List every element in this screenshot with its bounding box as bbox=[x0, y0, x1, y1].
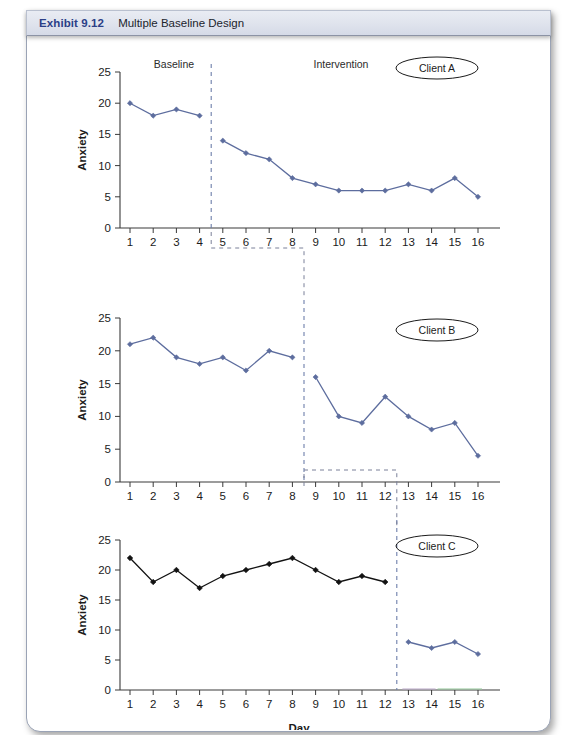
x-tick-label: 3 bbox=[173, 236, 179, 248]
chart-client-a: 051015202512345678910111213141516Anxiety… bbox=[26, 46, 551, 271]
x-tick-label: 5 bbox=[220, 236, 226, 248]
y-tick-label: 0 bbox=[105, 684, 111, 696]
x-tick-label: 12 bbox=[379, 490, 392, 502]
x-tick-label: 11 bbox=[356, 490, 368, 502]
data-point-marker bbox=[429, 645, 434, 650]
x-tick-label: 9 bbox=[312, 490, 318, 502]
x-tick-label: 7 bbox=[266, 236, 272, 248]
data-point-marker bbox=[406, 182, 411, 187]
series-line-intervention bbox=[223, 141, 478, 197]
x-tick-label: 3 bbox=[173, 490, 179, 502]
y-axis-title: Anxiety bbox=[76, 379, 88, 421]
x-tick-label: 13 bbox=[402, 490, 415, 502]
chart-client-c: 051015202512345678910111213141516Anxiety… bbox=[26, 518, 551, 730]
x-tick-label: 10 bbox=[332, 236, 345, 248]
data-point-marker bbox=[197, 361, 202, 366]
y-tick-label: 10 bbox=[98, 160, 111, 172]
series-line-baseline bbox=[130, 338, 292, 371]
x-tick-label: 15 bbox=[448, 236, 461, 248]
baseline-phase-label: Baseline bbox=[154, 58, 194, 70]
x-tick-label: 14 bbox=[425, 490, 438, 502]
x-tick-label: 11 bbox=[356, 236, 368, 248]
data-point-marker bbox=[151, 113, 156, 118]
y-tick-label: 20 bbox=[98, 345, 111, 357]
y-tick-label: 25 bbox=[98, 66, 111, 78]
data-point-marker bbox=[266, 561, 272, 567]
data-point-marker bbox=[243, 567, 249, 573]
y-axis-title: Anxiety bbox=[76, 594, 88, 636]
data-point-marker bbox=[382, 579, 388, 585]
x-tick-label: 13 bbox=[402, 698, 415, 710]
x-tick-label: 6 bbox=[243, 236, 249, 248]
x-tick-label: 12 bbox=[379, 236, 392, 248]
y-tick-label: 25 bbox=[98, 312, 111, 324]
data-point-marker bbox=[429, 427, 434, 432]
x-tick-label: 10 bbox=[332, 698, 345, 710]
y-tick-label: 0 bbox=[105, 476, 111, 488]
exhibit-header: Exhibit 9.12 Multiple Baseline Design bbox=[26, 10, 551, 36]
series-line-baseline bbox=[130, 103, 200, 115]
x-tick-label: 9 bbox=[312, 236, 318, 248]
x-tick-label: 13 bbox=[402, 236, 415, 248]
data-point-marker bbox=[220, 573, 226, 579]
exhibit-title: Multiple Baseline Design bbox=[118, 17, 244, 29]
data-point-marker bbox=[220, 355, 225, 360]
y-axis-title: Anxiety bbox=[76, 129, 88, 171]
client-badge-label: Client B bbox=[419, 324, 456, 336]
y-tick-label: 5 bbox=[105, 654, 111, 666]
x-tick-label: 16 bbox=[472, 236, 485, 248]
x-tick-label: 7 bbox=[266, 698, 272, 710]
data-point-marker bbox=[127, 101, 132, 106]
data-point-marker bbox=[452, 639, 457, 644]
intervention-phase-label: Intervention bbox=[314, 58, 369, 70]
data-point-marker bbox=[336, 579, 342, 585]
x-tick-label: 1 bbox=[127, 490, 133, 502]
chart-b-canvas: 051015202512345678910111213141516Anxiety… bbox=[26, 296, 551, 518]
x-tick-label: 14 bbox=[425, 698, 438, 710]
x-tick-label: 15 bbox=[448, 698, 461, 710]
x-tick-label: 5 bbox=[220, 490, 226, 502]
x-tick-label: 4 bbox=[196, 236, 203, 248]
data-point-marker bbox=[383, 188, 388, 193]
x-tick-label: 9 bbox=[312, 698, 318, 710]
x-tick-label: 10 bbox=[332, 490, 345, 502]
x-tick-label: 8 bbox=[289, 490, 295, 502]
data-point-marker bbox=[429, 188, 434, 193]
x-tick-label: 6 bbox=[243, 698, 249, 710]
data-point-marker bbox=[243, 151, 248, 156]
x-tick-label: 16 bbox=[472, 490, 485, 502]
data-point-marker bbox=[290, 355, 295, 360]
y-tick-label: 20 bbox=[98, 564, 111, 576]
x-tick-label: 2 bbox=[150, 698, 156, 710]
y-tick-label: 5 bbox=[105, 443, 111, 455]
y-tick-label: 5 bbox=[105, 191, 111, 203]
x-tick-label: 2 bbox=[150, 236, 156, 248]
data-point-marker bbox=[127, 342, 132, 347]
y-tick-label: 15 bbox=[98, 594, 111, 606]
x-tick-label: 1 bbox=[127, 698, 133, 710]
x-tick-label: 15 bbox=[448, 490, 461, 502]
y-tick-label: 0 bbox=[105, 222, 111, 234]
chart-client-b: 051015202512345678910111213141516Anxiety… bbox=[26, 296, 551, 518]
x-tick-label: 11 bbox=[356, 698, 368, 710]
data-point-marker bbox=[313, 182, 318, 187]
data-point-marker bbox=[174, 107, 179, 112]
series-line-intervention bbox=[408, 642, 478, 654]
data-point-marker bbox=[313, 567, 319, 573]
x-tick-label: 1 bbox=[127, 236, 133, 248]
y-tick-label: 15 bbox=[98, 128, 111, 140]
data-point-marker bbox=[359, 573, 365, 579]
x-tick-label: 2 bbox=[150, 490, 156, 502]
x-tick-label: 4 bbox=[196, 698, 203, 710]
exhibit-number: Exhibit 9.12 bbox=[39, 17, 104, 29]
x-tick-label: 16 bbox=[472, 698, 485, 710]
y-tick-label: 25 bbox=[98, 534, 111, 546]
page-bottom-edge bbox=[0, 735, 563, 751]
data-point-marker bbox=[197, 113, 202, 118]
x-tick-label: 12 bbox=[379, 698, 392, 710]
exhibit-page: Exhibit 9.12 Multiple Baseline Design 05… bbox=[0, 0, 563, 751]
data-point-marker bbox=[406, 639, 411, 644]
chart-c-canvas: 051015202512345678910111213141516Anxiety… bbox=[26, 518, 551, 730]
x-tick-label: 14 bbox=[425, 236, 438, 248]
client-badge-label: Client A bbox=[419, 62, 455, 74]
